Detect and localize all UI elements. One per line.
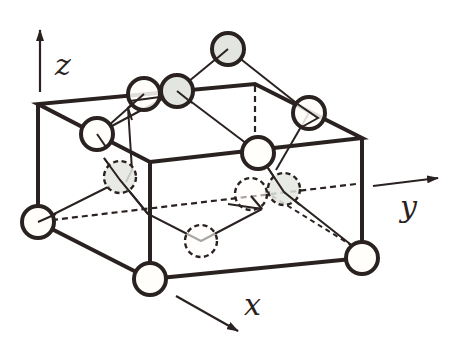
hidden-bottom-back-edge: [52, 184, 356, 220]
axis-arrows: [40, 30, 438, 331]
box-bottom-left-edge: [38, 222, 150, 279]
box-bottom-right-edge: [150, 258, 362, 279]
atom-open: [242, 137, 274, 169]
z-axis-label: z: [55, 50, 71, 80]
y-axis-arrow: [373, 178, 438, 186]
atom-open: [134, 263, 166, 295]
hidden-atoms: [104, 161, 300, 257]
crystal-structure-diagram: z y x: [0, 0, 457, 348]
y-axis-label: y: [400, 192, 417, 222]
hidden-atom-open: [185, 225, 217, 257]
x-axis-arrow: [176, 296, 238, 331]
atom-open: [346, 242, 378, 274]
x-axis-label: x: [244, 290, 261, 320]
